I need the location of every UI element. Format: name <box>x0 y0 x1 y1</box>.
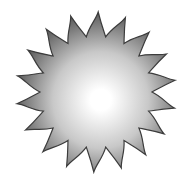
sun-rays-shape <box>17 12 175 172</box>
canvas <box>0 0 187 182</box>
sun-icon <box>0 0 187 182</box>
